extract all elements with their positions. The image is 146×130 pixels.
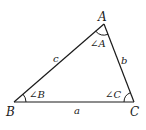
angle-a-label: ∠A [90, 38, 106, 49]
triangle-diagram: A B C c b a ∠A ∠B ∠C [0, 0, 146, 130]
vertex-b-label: B [5, 105, 15, 119]
angle-c-label: ∠C [105, 89, 121, 100]
side-b-label: b [121, 55, 127, 66]
angle-a-arc [96, 31, 108, 35]
side-c-label: c [53, 53, 59, 64]
vertex-c-label: C [130, 105, 139, 119]
angle-b-label: ∠B [29, 89, 45, 100]
vertex-a-label: A [97, 10, 107, 24]
angle-b-arc [23, 94, 26, 102]
side-c-line [14, 24, 104, 102]
side-a-label: a [74, 105, 80, 116]
angle-c-arc [124, 93, 130, 102]
